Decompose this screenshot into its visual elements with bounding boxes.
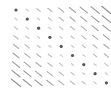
segment-glyph [35,71,41,76]
segment-glyph [37,18,39,20]
segment-glyph [93,45,97,48]
segment-glyph [59,81,64,85]
segment-glyph [92,26,98,31]
segment-glyph [14,27,17,30]
diagonal-dot [48,36,51,39]
segment-glyph [81,26,86,30]
segment-glyph [103,35,109,40]
segment-glyph [49,27,51,29]
segment-glyph [91,16,98,22]
segment-glyph [81,17,87,22]
segment-glyph [105,73,107,75]
segment-glyph [104,54,108,57]
segment-glyph [83,73,85,75]
segment-glyph [71,64,73,66]
segment-glyph [102,16,110,23]
diagonal-dot [26,18,29,21]
segment-glyph [60,63,63,66]
segment-glyph [80,7,87,13]
segment-glyph [104,44,109,48]
segment-glyph [13,53,19,58]
segment-glyph [37,45,40,48]
segment-glyph [26,36,29,39]
segment-glyph [25,45,29,48]
segment-glyph [71,72,74,75]
segment-glyph [26,27,28,29]
segment-glyph [35,80,42,86]
segment-glyph [47,80,53,85]
segment-glyph [70,81,74,84]
diagonal-dot [94,72,97,75]
segment-glyph [59,17,63,20]
segment-glyph [91,7,99,14]
segment-glyph [49,46,51,48]
diagonal-dot [60,45,63,48]
diagonal-dot [14,8,17,11]
diagonal-dot [37,27,40,30]
segment-glyph [92,35,97,39]
segment-glyph [60,27,63,30]
segment-glyph [23,79,31,86]
segment-glyph [48,8,52,11]
diagonal-dot [71,54,74,57]
segment-glyph [60,55,62,57]
segment-glyph [15,18,17,20]
segment-glyph [59,8,64,12]
segment-glyph [14,36,18,39]
segment-glyph [37,9,40,12]
segment-glyph [48,54,51,57]
segment-glyph [82,45,85,48]
segment-glyph [82,36,86,39]
segment-glyph [48,18,51,21]
diagonal-dot [105,81,108,84]
segment-glyph [36,54,40,57]
segment-glyph [60,36,62,38]
diagonal-dot [82,63,85,66]
segment-glyph [59,72,63,75]
segment-glyph [94,82,96,84]
segment-glyph [70,17,75,21]
glyph-matrix-plot [0,0,111,93]
segment-glyph [69,7,75,12]
segment-glyph [36,62,41,66]
segment-glyph [13,44,18,48]
segment-glyph [94,64,96,66]
segment-glyph [47,72,52,76]
segment-glyph [102,6,111,13]
segment-glyph [11,79,20,86]
segment-glyph [25,53,30,57]
segment-glyph [24,62,30,67]
segment-glyph [105,63,108,66]
segment-glyph [48,63,52,66]
segment-glyph [82,81,85,84]
segment-glyph [12,62,19,68]
segment-glyph [12,70,20,77]
segment-glyph [71,46,73,48]
segment-glyph [37,36,39,38]
segment-glyph [71,36,74,39]
segment-glyph [70,26,74,29]
segment-glyph [26,9,28,11]
segment-glyph [93,54,96,57]
segment-glyph [103,25,110,31]
segment-glyph [24,71,31,77]
segment-glyph [83,55,85,57]
